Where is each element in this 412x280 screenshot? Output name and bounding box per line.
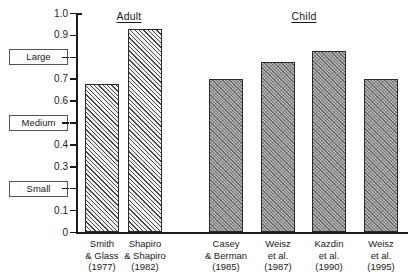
bar [261, 62, 295, 233]
x-axis-label: Shapiro& Shapiro(1982) [111, 238, 179, 273]
y-tick [70, 35, 76, 37]
magnitude-connector [62, 188, 69, 189]
y-tick-label: 0 [40, 228, 68, 238]
magnitude-label-small: Small [9, 181, 68, 197]
y-tick [70, 122, 76, 124]
magnitude-connector [62, 57, 69, 58]
x-axis-label-line: & Shapiro [111, 250, 179, 262]
y-tick [70, 166, 76, 168]
magnitude-connector [62, 122, 69, 123]
y-tick-label: 1.0 [40, 9, 68, 19]
y-tick-label: 0.9 [40, 30, 68, 40]
y-tick [70, 210, 76, 212]
y-tick-label: 0.7 [40, 74, 68, 84]
x-axis-label-line: Weisz [347, 238, 412, 250]
y-tick [70, 57, 76, 59]
bar [312, 51, 346, 233]
magnitude-label-medium: Medium [9, 115, 68, 131]
y-tick [70, 78, 76, 80]
y-tick-label: 0.4 [40, 140, 68, 150]
bar [128, 29, 162, 233]
y-axis-top-cap [76, 13, 82, 15]
y-tick-label: 0.6 [40, 96, 68, 106]
x-axis-label-line: (1995) [347, 261, 412, 273]
group-label-adult: Adult [97, 10, 161, 22]
y-tick [70, 188, 76, 190]
group-label-child: Child [272, 10, 336, 22]
y-axis [76, 13, 78, 233]
y-tick-label: 0.3 [40, 162, 68, 172]
y-tick [70, 13, 76, 15]
x-axis-label-line: Shapiro [111, 238, 179, 250]
y-tick [70, 100, 76, 102]
bar [209, 79, 243, 232]
y-tick-label: 0.1 [40, 206, 68, 216]
x-axis-label: Weiszet al.(1995) [347, 238, 412, 273]
y-tick [70, 144, 76, 146]
magnitude-label-large: Large [9, 49, 68, 65]
y-tick [70, 232, 76, 234]
bar-chart: Adult Child 1.00.90.80.70.60.50.40.30.20… [0, 0, 412, 280]
bar [364, 79, 398, 232]
bar [85, 84, 119, 233]
x-axis-label-line: (1982) [111, 261, 179, 273]
x-axis-label-line: et al. [347, 250, 412, 262]
